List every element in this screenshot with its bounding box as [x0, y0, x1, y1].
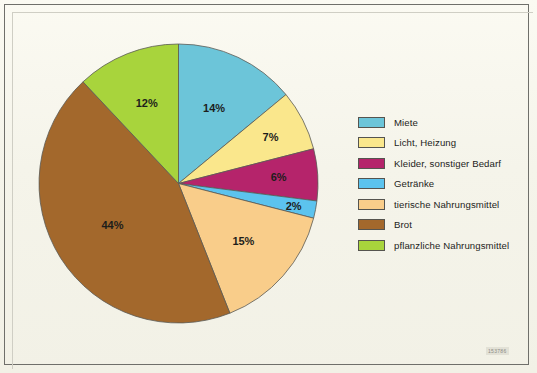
legend-color-swatch	[358, 117, 385, 128]
legend-item-label: Licht, Heizung	[394, 137, 456, 148]
legend-color-swatch	[358, 137, 385, 148]
legend-color-swatch	[358, 178, 385, 189]
legend-color-swatch	[358, 199, 385, 210]
pie-data-label: 15%	[232, 235, 254, 247]
chart-legend: MieteLicht, HeizungKleider, sonstiger Be…	[358, 114, 530, 258]
legend-item: pflanzliche Nahrungsmittel	[358, 238, 530, 254]
legend-item: tierische Nahrungsmittel	[358, 196, 530, 212]
legend-item-label: tierische Nahrungsmittel	[394, 199, 499, 210]
legend-item-label: Getränke	[394, 178, 434, 189]
pie-chart: 14%7%6%2%15%44%12%	[38, 43, 319, 324]
legend-item-label: pflanzliche Nahrungsmittel	[394, 240, 509, 251]
legend-item: Brot	[358, 217, 530, 233]
pie-data-label: 44%	[101, 219, 123, 231]
legend-item-label: Miete	[394, 117, 418, 128]
pie-chart-figure: 14%7%6%2%15%44%12% MieteLicht, HeizungKl…	[0, 0, 537, 373]
legend-color-swatch	[358, 158, 385, 169]
pie-slice-group	[39, 44, 318, 323]
legend-item-label: Kleider, sonstiger Bedarf	[394, 158, 501, 169]
legend-item-label: Brot	[394, 219, 412, 230]
pie-data-label: 7%	[263, 131, 279, 143]
legend-item: Licht, Heizung	[358, 135, 530, 151]
pie-data-label: 14%	[203, 102, 225, 114]
legend-item: Getränke	[358, 176, 530, 192]
plate-code: 153786	[486, 347, 509, 355]
pie-data-label: 12%	[136, 97, 158, 109]
pie-data-label: 2%	[286, 200, 302, 212]
pie-data-label: 6%	[271, 171, 287, 183]
legend-color-swatch	[358, 240, 385, 251]
legend-color-swatch	[358, 219, 385, 230]
pie-chart-svg: 14%7%6%2%15%44%12%	[38, 43, 319, 324]
legend-item: Miete	[358, 114, 530, 130]
legend-item: Kleider, sonstiger Bedarf	[358, 155, 530, 171]
